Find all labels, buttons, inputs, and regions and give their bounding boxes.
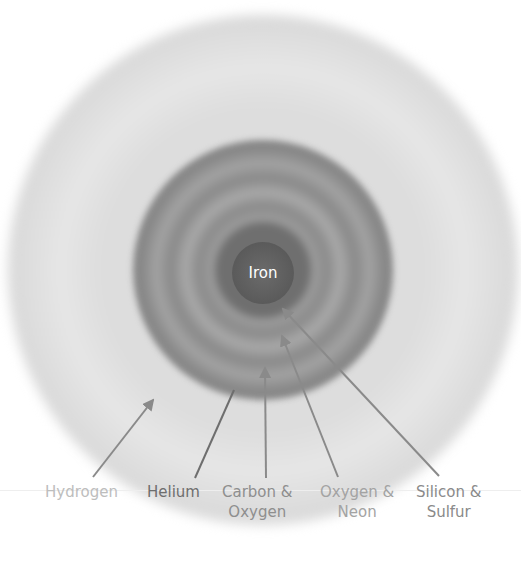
helium-label: Helium (147, 482, 200, 502)
silicon-sulfur-arrow (283, 309, 439, 476)
carbon-oxygen-arrow (265, 368, 266, 478)
silicon-sulfur-label: Silicon & Sulfur (416, 482, 481, 522)
hydrogen-label: Hydrogen (45, 482, 118, 502)
oxygen-neon-arrow (282, 336, 338, 477)
helium-arrow (195, 390, 234, 478)
oxygen-neon-label: Oxygen & Neon (320, 482, 394, 522)
hydrogen-arrow (93, 400, 153, 477)
arrows (0, 0, 521, 561)
carbon-oxygen-label: Carbon & Oxygen (222, 482, 293, 522)
